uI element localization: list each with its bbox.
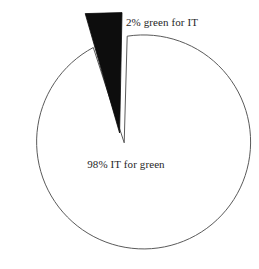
pie-label-it-for-green: 98% IT for green xyxy=(76,158,176,171)
pie-label-green-for-it: 2% green for IT xyxy=(126,16,198,29)
pie-chart-canvas xyxy=(0,0,259,269)
pie-chart: 2% green for IT 98% IT for green xyxy=(0,0,259,269)
pie-slice-it-for-green[interactable] xyxy=(37,35,251,249)
